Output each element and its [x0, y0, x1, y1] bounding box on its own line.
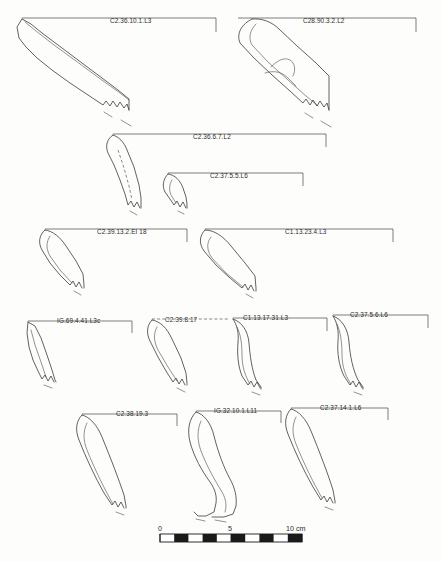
- vessel-label-v9: C1.13.17.31.L3: [243, 314, 288, 321]
- vessel-drawing-v13: [286, 408, 388, 510]
- vessel-label-v3: C2.36.6.7.L2: [193, 133, 231, 140]
- vessel-label-v10: C2.37.5.6.L6: [350, 311, 388, 318]
- vessel-drawing-v5: [40, 229, 187, 295]
- vessel-drawing-v6: [200, 229, 393, 298]
- vessel-label-v2: C28.90.3.2.L2: [303, 17, 344, 24]
- vessel-drawing-v12: [189, 411, 281, 522]
- vessel-label-v12: IG.32.10.1.L11: [214, 407, 257, 414]
- vessel-label-v4: C2.37.5.5.L6: [210, 172, 248, 179]
- vessel-label-v13: C2.37.14.1.L6: [320, 404, 361, 411]
- vessel-label-v11: C2.38.19.3: [116, 410, 148, 417]
- vessel-label-v7: IG.69.4.41.L3c: [57, 317, 100, 324]
- vessel-drawing-v8: [148, 319, 228, 392]
- scale-bar-graphic: [160, 534, 302, 542]
- vessel-drawing-v7: [27, 321, 132, 388]
- vessel-drawing-v1: [17, 18, 216, 126]
- vessel-label-v8: C2.39.8.17: [165, 316, 197, 323]
- vessel-drawing-v9: [233, 318, 327, 395]
- vessel-drawing-v10: [333, 315, 428, 395]
- profile-drawings-canvas: [0, 0, 442, 562]
- scale-tick-5: 5: [228, 524, 232, 533]
- pottery-profile-plate: C2.36.10.1.L3 C28.90.3.2.L2 C2.36.6.7.L2…: [0, 0, 442, 562]
- vessel-label-v1: C2.36.10.1.L3: [110, 17, 151, 24]
- vessel-label-v5: C2.39.13.2.EI 18: [97, 228, 147, 235]
- scale-tick-10: 10 cm: [286, 524, 306, 533]
- vessel-drawing-v4: [163, 173, 303, 214]
- vessel-drawing-v11: [77, 414, 177, 515]
- vessel-drawing-v2: [238, 18, 416, 127]
- vessel-label-v6: C1.13.23.4.L3: [285, 228, 326, 235]
- scale-tick-0: 0: [158, 524, 162, 533]
